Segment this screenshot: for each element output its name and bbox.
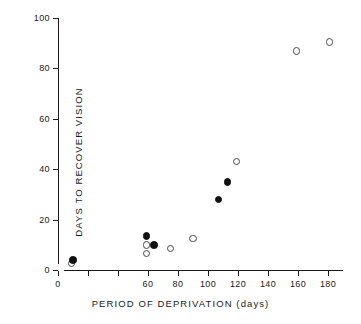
x-tick-label-0: 0 xyxy=(55,279,60,289)
data-point-filled-4 xyxy=(224,178,232,186)
plot-area: 020406080100 06080100120140160180 xyxy=(58,18,343,270)
y-tick-20 xyxy=(53,220,58,221)
data-point-filled-0 xyxy=(69,256,77,264)
data-point-filled-3 xyxy=(215,196,223,204)
x-tick-label-180: 180 xyxy=(320,279,336,289)
x-tick-label-140: 140 xyxy=(260,279,276,289)
x-tick-160 xyxy=(298,271,299,276)
scatter-plot-figure: DAYS TO RECOVER VISION 020406080100 0608… xyxy=(0,0,361,324)
x-tick-0 xyxy=(58,271,59,276)
x-tick-100 xyxy=(208,271,209,276)
x-tick-label-60: 60 xyxy=(143,279,154,289)
data-point-open-1 xyxy=(143,241,151,249)
x-tick-80 xyxy=(178,271,179,276)
y-tick-60 xyxy=(53,119,58,120)
data-point-open-4 xyxy=(189,235,197,243)
x-tick-label-120: 120 xyxy=(230,279,246,289)
x-tick-label-80: 80 xyxy=(173,279,184,289)
x-tick-label-100: 100 xyxy=(200,279,216,289)
y-tick-label-20: 20 xyxy=(39,215,50,225)
y-tick-label-80: 80 xyxy=(39,63,50,73)
y-axis-line xyxy=(58,18,59,264)
y-tick-40 xyxy=(53,169,58,170)
y-tick-label-40: 40 xyxy=(39,164,50,174)
x-tick-40 xyxy=(118,271,119,276)
y-tick-80 xyxy=(53,68,58,69)
x-tick-label-160: 160 xyxy=(290,279,306,289)
data-point-open-2 xyxy=(143,250,151,258)
data-point-filled-1 xyxy=(143,232,151,240)
x-tick-60 xyxy=(148,271,149,276)
x-tick-20 xyxy=(88,271,89,276)
y-tick-label-60: 60 xyxy=(39,114,50,124)
x-axis-line xyxy=(64,270,343,271)
data-point-open-6 xyxy=(293,47,301,55)
x-tick-180 xyxy=(328,271,329,276)
y-tick-100 xyxy=(53,18,58,19)
x-tick-120 xyxy=(238,271,239,276)
data-point-filled-2 xyxy=(150,241,158,249)
data-point-open-3 xyxy=(167,245,175,253)
y-tick-label-100: 100 xyxy=(34,13,50,23)
x-tick-140 xyxy=(268,271,269,276)
x-axis-title: PERIOD OF DEPRIVATION (days) xyxy=(0,298,361,309)
data-point-open-7 xyxy=(326,38,334,46)
y-tick-label-0: 0 xyxy=(45,265,50,275)
data-point-open-5 xyxy=(233,158,241,166)
